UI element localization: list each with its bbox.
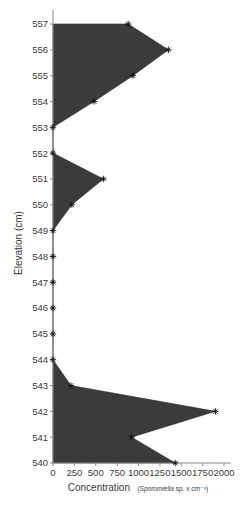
x-tick-label: 0 bbox=[50, 467, 55, 478]
asterisk-marker-icon bbox=[50, 305, 56, 311]
asterisk-marker-icon bbox=[68, 382, 74, 388]
area-polygon bbox=[53, 24, 215, 463]
elevation-concentration-chart: 5405415425435445455465475485495505515525… bbox=[0, 0, 246, 510]
x-axis-label-units-taxon: Sporomiella bbox=[140, 485, 175, 493]
y-tick-label: 545 bbox=[32, 328, 48, 339]
x-tick-label: 1500 bbox=[171, 467, 192, 478]
asterisk-marker-icon bbox=[125, 21, 131, 27]
x-axis-label-main: Concentration bbox=[68, 482, 130, 493]
asterisk-marker-icon bbox=[212, 408, 218, 414]
y-tick-label: 553 bbox=[32, 122, 48, 133]
x-axis-label: Concentration (Sporomiella sp. x cm⁻³) bbox=[68, 477, 209, 494]
asterisk-marker-icon bbox=[50, 331, 56, 337]
x-tick-label: 2000 bbox=[213, 467, 234, 478]
y-tick-label: 555 bbox=[32, 70, 48, 81]
asterisk-marker-icon bbox=[50, 279, 56, 285]
x-tick-label: 750 bbox=[109, 467, 125, 478]
y-tick-label: 550 bbox=[32, 199, 48, 210]
y-tick-label: 556 bbox=[32, 44, 48, 55]
asterisk-marker-icon bbox=[50, 253, 56, 259]
y-tick-label: 549 bbox=[32, 225, 48, 236]
y-tick-label: 546 bbox=[32, 302, 48, 313]
y-tick-label: 547 bbox=[32, 277, 48, 288]
concentration-area bbox=[53, 24, 215, 463]
asterisk-marker-icon bbox=[172, 460, 178, 466]
x-tick-label: 1750 bbox=[192, 467, 213, 478]
y-tick-label: 540 bbox=[32, 457, 48, 468]
x-tick-label: 1250 bbox=[149, 467, 170, 478]
asterisk-marker-icon bbox=[69, 202, 75, 208]
y-tick-label: 541 bbox=[32, 432, 48, 443]
asterisk-marker-icon bbox=[128, 434, 134, 440]
x-tick-label: 250 bbox=[66, 467, 82, 478]
y-tick-label: 542 bbox=[32, 406, 48, 417]
y-tick-label: 551 bbox=[32, 173, 48, 184]
x-tick-label: 500 bbox=[88, 467, 104, 478]
y-axis-label: Elevation (cm) bbox=[13, 211, 24, 275]
y-tick-label: 554 bbox=[32, 96, 48, 107]
y-tick-label: 548 bbox=[32, 251, 48, 262]
asterisk-marker-icon bbox=[100, 176, 106, 182]
y-tick-label: 543 bbox=[32, 380, 48, 391]
y-tick-label: 557 bbox=[32, 18, 48, 29]
y-tick-label: 552 bbox=[32, 148, 48, 159]
asterisk-marker-icon bbox=[165, 47, 171, 53]
x-axis-label-units-suffix: sp. x cm⁻³) bbox=[174, 485, 208, 493]
asterisk-marker-icon bbox=[50, 150, 56, 156]
asterisk-marker-icon bbox=[50, 357, 56, 363]
asterisk-marker-icon bbox=[50, 124, 56, 130]
asterisk-marker-icon bbox=[130, 72, 136, 78]
y-tick-label: 544 bbox=[32, 354, 48, 365]
asterisk-marker-icon bbox=[50, 227, 56, 233]
